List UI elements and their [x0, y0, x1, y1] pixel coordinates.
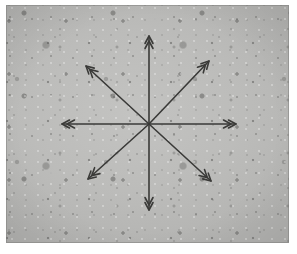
radial-arrow-overlay	[6, 5, 289, 243]
arrow-up-left	[86, 66, 149, 124]
arrow-down	[145, 124, 153, 210]
arrow-down-left	[88, 124, 149, 179]
arrow-shaft	[149, 124, 211, 181]
arrow-shaft	[86, 66, 149, 124]
photograph-panel	[6, 5, 289, 243]
arrow-down-right	[149, 124, 211, 181]
arrow-left	[62, 120, 149, 128]
screenshot-root	[0, 0, 297, 254]
arrow-up-right	[149, 61, 209, 124]
arrow-right	[149, 120, 236, 128]
arrow-up	[145, 36, 153, 124]
arrow-shaft	[149, 61, 209, 124]
arrow-group	[62, 36, 236, 210]
arrow-shaft	[88, 124, 149, 179]
